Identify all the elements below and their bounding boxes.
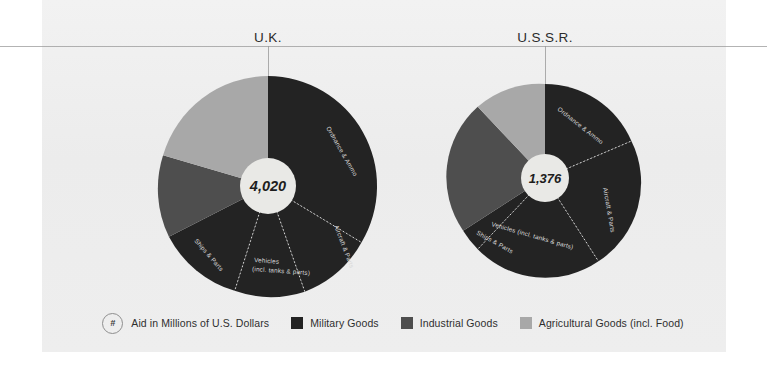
legend-swatch-industrial (401, 317, 413, 329)
pie-center-value-ussr: 1,376 (529, 171, 562, 186)
leader-line-uk (268, 46, 269, 78)
legend-label-agricultural: Agricultural Goods (incl. Food) (539, 317, 684, 329)
leader-line-ussr (545, 46, 546, 85)
figure-root: U.K. U.S.S.R. Ordnance & Ammo Aircraft &… (0, 0, 767, 366)
legend-item-agricultural[interactable]: Agricultural Goods (incl. Food) (520, 317, 684, 329)
pie-svg-uk: Ordnance & Ammo Aircraft & Parts Vehicle… (158, 76, 378, 296)
pie-center-value-uk: 4,020 (249, 178, 286, 194)
legend-item-aid-value[interactable]: # Aid in Millions of U.S. Dollars (102, 313, 269, 334)
legend-item-industrial[interactable]: Industrial Goods (401, 317, 498, 329)
chart-legend: # Aid in Millions of U.S. Dollars Milita… (42, 306, 726, 340)
legend-label-industrial: Industrial Goods (420, 317, 498, 329)
legend-label-military: Military Goods (310, 317, 379, 329)
chart-title-uk: U.K. (254, 30, 282, 45)
pie-chart-uk[interactable]: Ordnance & Ammo Aircraft & Parts Vehicle… (158, 76, 378, 296)
legend-item-military[interactable]: Military Goods (291, 317, 379, 329)
chart-title-ussr: U.S.S.R. (517, 30, 573, 45)
legend-swatch-military (291, 317, 303, 329)
legend-swatch-agricultural (520, 317, 532, 329)
legend-label-aid-value: Aid in Millions of U.S. Dollars (131, 317, 269, 329)
pie-chart-ussr[interactable]: Ordnance & Ammo Aircraft & Parts Vehicle… (451, 84, 639, 272)
pie-svg-ussr: Ordnance & Ammo Aircraft & Parts Vehicle… (451, 84, 639, 272)
hash-marker-icon: # (102, 313, 123, 334)
header-rule (0, 46, 767, 47)
legend-items: # Aid in Millions of U.S. Dollars Milita… (84, 313, 683, 334)
